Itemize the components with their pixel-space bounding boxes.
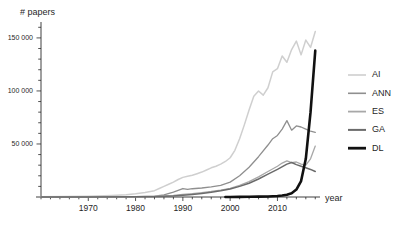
y-tick-label: 50 000 <box>12 140 34 147</box>
x-tick-label: 1990 <box>173 203 192 213</box>
legend-label-ai: AI <box>372 69 381 79</box>
legend-label-ann: ANN <box>372 88 391 98</box>
x-tick-label: 1970 <box>79 203 98 213</box>
x-axis-tick-labels: 19701980199020002010 <box>79 203 287 213</box>
data-series-group <box>41 32 315 197</box>
y-axis-ticks <box>37 27 42 186</box>
y-tick-label: 100 000 <box>8 87 33 94</box>
series-line-ai <box>41 32 315 197</box>
chart-legend: AIANNESGADL <box>348 69 391 152</box>
legend-label-es: ES <box>372 106 384 116</box>
x-tick-label: 2010 <box>268 203 287 213</box>
x-axis-title: year <box>325 193 343 203</box>
y-axis-tick-labels: 50 000100 000150 000 <box>8 34 33 147</box>
x-tick-label: 2000 <box>221 203 240 213</box>
x-tick-label: 1980 <box>126 203 145 213</box>
legend-label-dl: DL <box>372 143 384 153</box>
legend-label-ga: GA <box>372 124 385 134</box>
y-axis-title: # papers <box>20 7 56 17</box>
chart-container: # papers year 50 000100 000150 000 19701… <box>0 0 407 225</box>
papers-over-time-line-chart: # papers year 50 000100 000150 000 19701… <box>0 0 407 225</box>
series-line-dl <box>225 51 315 197</box>
series-line-ann <box>41 121 315 197</box>
y-tick-label: 150 000 <box>8 34 33 41</box>
